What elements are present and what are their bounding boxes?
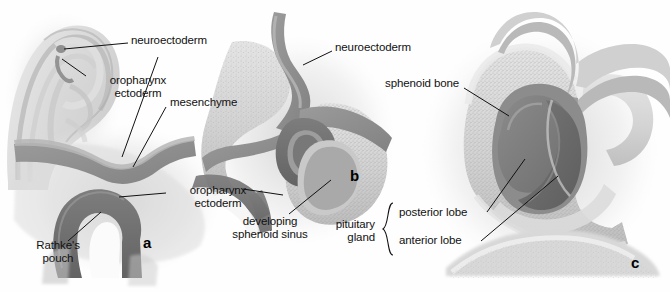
panel-letter-c: c — [631, 254, 639, 271]
label-posterior-lobe: posterior lobe — [399, 206, 467, 219]
label-sphenoid-bone: sphenoid bone — [385, 77, 459, 90]
label-anterior-lobe: anterior lobe — [399, 234, 462, 247]
panel-letter-a: a — [143, 234, 151, 251]
pituitary-development-figure: neuroectoderm oropharynx ectoderm mesenc… — [0, 0, 670, 292]
panel-letter-b: b — [350, 167, 359, 184]
label-rathkes-pouch: Rathke's pouch — [18, 239, 98, 265]
label-pituitary-gland-line2: gland — [295, 231, 375, 244]
label-oropharynx-ectoderm-a: oropharynx ectoderm — [170, 184, 266, 210]
label-pituitary-gland: pituitary gland — [295, 218, 375, 244]
label-oropharynx-ectoderm-a-line2: ectoderm — [170, 197, 266, 210]
label-rathkes-pouch-line1: Rathke's — [18, 239, 98, 252]
label-mesenchyme: mesenchyme — [170, 96, 237, 109]
label-rathkes-pouch-line2: pouch — [18, 252, 98, 265]
label-pituitary-gland-line1: pituitary — [295, 218, 375, 231]
label-neuroectoderm-b: neuroectoderm — [335, 41, 411, 54]
label-oropharynx-ectoderm-embryo-line1: oropharynx — [90, 74, 186, 87]
pituitary-gland-brace — [383, 203, 393, 255]
label-oropharynx-ectoderm-a-line1: oropharynx — [170, 184, 266, 197]
label-neuroectoderm-embryo: neuroectoderm — [131, 34, 207, 47]
